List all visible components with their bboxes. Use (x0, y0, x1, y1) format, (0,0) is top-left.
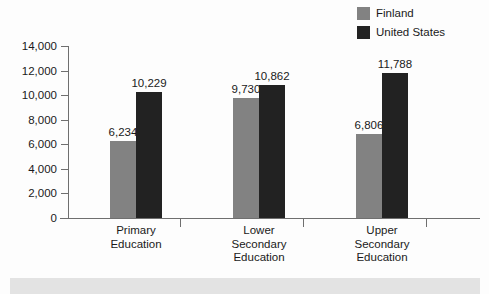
bar-group: 6,23410,229 (110, 92, 162, 218)
legend-swatch-finland (357, 7, 370, 20)
y-axis-tick: 14,000 (61, 46, 68, 47)
bar-finland[interactable]: 9,730 (233, 98, 259, 218)
bar-group: 9,73010,862 (233, 85, 285, 218)
category-label: UpperSecondaryEducation (322, 224, 442, 265)
y-axis-tick-label: 10,000 (22, 89, 57, 101)
bar-united-states[interactable]: 10,229 (136, 92, 162, 218)
y-axis-tick-label: 8,000 (28, 114, 57, 126)
bar-value-label: 6,234 (109, 126, 138, 139)
y-axis-line (68, 46, 69, 218)
y-axis-tick-label: 6,000 (28, 138, 57, 150)
y-axis-tick-label: 0 (51, 212, 57, 224)
bar-value-label: 9,730 (232, 83, 261, 96)
legend-label-finland: Finland (376, 7, 414, 20)
category-label-line: Education (322, 251, 442, 265)
bar-united-states[interactable]: 10,862 (259, 85, 285, 218)
y-axis-tick-label: 4,000 (28, 163, 57, 175)
bar-value-label: 10,229 (131, 77, 166, 90)
bar-finland[interactable]: 6,806 (356, 134, 382, 218)
y-axis-tick-label: 12,000 (22, 65, 57, 77)
bar-value-label: 10,862 (254, 70, 289, 83)
legend-item-finland: Finland (357, 6, 445, 21)
y-axis-tick: 6,000 (61, 144, 68, 145)
bar-rect[interactable] (356, 134, 382, 218)
footer-band (10, 278, 480, 294)
x-axis-baseline (60, 218, 480, 219)
y-axis-tick: 12,000 (61, 71, 68, 72)
category-label: PrimaryEducation (76, 224, 196, 251)
category-label-line: Lower (199, 224, 319, 238)
category-label-line: Education (199, 251, 319, 265)
bar-value-label: 6,806 (355, 119, 384, 132)
bar-rect[interactable] (110, 141, 136, 218)
category-label-line: Education (76, 238, 196, 252)
bar-rect[interactable] (233, 98, 259, 218)
chart-legend: Finland United States (357, 6, 445, 40)
y-axis-tick-label: 14,000 (22, 40, 57, 52)
bar-rect[interactable] (136, 92, 162, 218)
bar-chart-figure: Finland United States 14,00012,00010,000… (0, 0, 489, 294)
bar-finland[interactable]: 6,234 (110, 141, 136, 218)
plot-area: 14,00012,00010,0008,0006,0004,0002,0000 … (68, 46, 480, 218)
bar-united-states[interactable]: 11,788 (382, 73, 408, 218)
category-label-line: Upper (322, 224, 442, 238)
bar-rect[interactable] (259, 85, 285, 218)
y-axis-tick: 2,000 (61, 193, 68, 194)
bar-rect[interactable] (382, 73, 408, 218)
category-label-line: Secondary (322, 238, 442, 252)
legend-label-united-states: United States (376, 26, 445, 39)
y-axis-tick: 0 (61, 218, 68, 219)
bar-group: 6,80611,788 (356, 73, 408, 218)
category-label-line: Secondary (199, 238, 319, 252)
legend-swatch-united-states (357, 26, 370, 39)
y-axis-tick: 4,000 (61, 169, 68, 170)
category-label: LowerSecondaryEducation (199, 224, 319, 265)
bar-value-label: 11,788 (378, 58, 412, 71)
y-axis-tick-label: 2,000 (28, 187, 57, 199)
legend-item-united-states: United States (357, 25, 445, 40)
category-label-line: Primary (76, 224, 196, 238)
y-axis-tick: 10,000 (61, 95, 68, 96)
y-axis-tick: 8,000 (61, 120, 68, 121)
